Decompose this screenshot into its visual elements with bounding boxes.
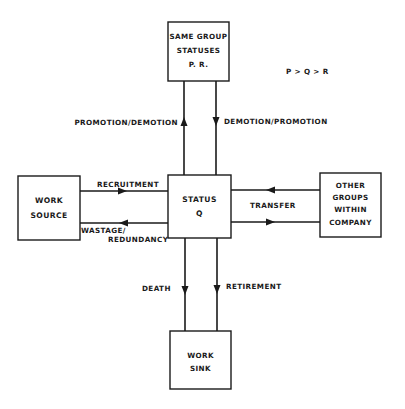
arrow-down-icon bbox=[182, 286, 189, 295]
work-sink-box: WORK SINK bbox=[170, 331, 231, 389]
work-source-label-2: SOURCE bbox=[30, 211, 67, 220]
same-group-label-1: SAME GROUP bbox=[170, 32, 228, 41]
order-legend: P > Q > R bbox=[286, 67, 329, 76]
same-group-label-3: P. R. bbox=[189, 60, 209, 69]
arrow-right-icon bbox=[266, 219, 275, 226]
arrow-down-icon bbox=[213, 117, 220, 126]
arrow-down-icon bbox=[214, 285, 221, 294]
redundancy-label: REDUNDANCY bbox=[108, 235, 169, 244]
retirement-label: RETIREMENT bbox=[226, 282, 281, 291]
status-q-box: STATUS Q bbox=[168, 175, 231, 238]
work-sink-label-1: WORK bbox=[187, 351, 214, 360]
recruitment-label: RECRUITMENT bbox=[97, 180, 159, 189]
other-groups-label-3: WITHIN bbox=[334, 205, 367, 214]
demotion-promotion-label: DEMOTION/PROMOTION bbox=[224, 117, 328, 126]
same-group-label-2: STATUSES bbox=[177, 46, 221, 55]
status-q-label-1: STATUS bbox=[182, 195, 217, 204]
other-groups-box: OTHER GROUPS WITHIN COMPANY bbox=[320, 173, 381, 237]
arrow-left-icon bbox=[266, 187, 275, 194]
status-q-label-2: Q bbox=[196, 209, 203, 218]
arrow-up-icon bbox=[181, 117, 188, 126]
promotion-demotion-label: PROMOTION/DEMOTION bbox=[74, 118, 178, 127]
work-source-box: WORK SOURCE bbox=[18, 176, 80, 240]
flow-diagram: SAME GROUP STATUSES P. R. STATUS Q WORK … bbox=[0, 0, 405, 409]
same-group-box: SAME GROUP STATUSES P. R. bbox=[168, 22, 229, 81]
other-groups-label-2: GROUPS bbox=[332, 193, 368, 202]
other-groups-label-4: COMPANY bbox=[329, 218, 372, 227]
work-source-label-1: WORK bbox=[35, 196, 64, 205]
wastage-label: WASTAGE/ bbox=[81, 226, 126, 235]
other-groups-label-1: OTHER bbox=[336, 181, 366, 190]
transfer-label: TRANSFER bbox=[250, 201, 296, 210]
death-label: DEATH bbox=[142, 284, 171, 293]
work-sink-label-2: SINK bbox=[190, 364, 211, 373]
